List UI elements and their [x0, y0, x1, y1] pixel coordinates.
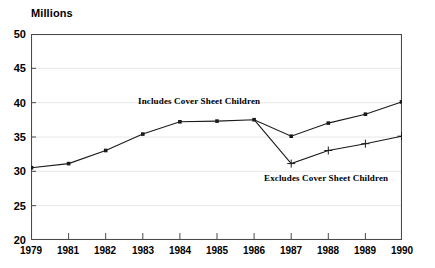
x-tick-label-1985: 1985	[197, 245, 237, 256]
x-tick-label-1987: 1987	[271, 245, 311, 256]
annotation-includes-cover-sheet-children: Includes Cover Sheet Children	[138, 96, 260, 106]
plot-area: Includes Cover Sheet Children Excludes C…	[31, 34, 402, 240]
y-tick-label-45: 45	[2, 62, 26, 74]
y-tick-label-40: 40	[2, 97, 26, 109]
y-tick-label-35: 35	[2, 131, 26, 143]
y-tick-label-30: 30	[2, 165, 26, 177]
x-tick-label-1983: 1983	[123, 245, 163, 256]
annotation-excludes-cover-sheet-children: Excludes Cover Sheet Children	[264, 173, 388, 183]
x-tick-label-1984: 1984	[160, 245, 200, 256]
plot-svg	[31, 34, 402, 240]
chart-title: Millions	[31, 7, 73, 19]
chart-figure: Millions	[0, 0, 435, 268]
x-tick-label-1989: 1989	[345, 245, 385, 256]
y-tick-label-25: 25	[2, 200, 26, 212]
x-tick-label-1979: 1979	[11, 245, 51, 256]
x-tick-label-1990: 1990	[382, 245, 422, 256]
x-tick-label-1988: 1988	[308, 245, 348, 256]
x-tick-label-1982: 1982	[85, 245, 125, 256]
x-tick-label-1981: 1981	[48, 245, 88, 256]
y-tick-label-50: 50	[2, 28, 26, 40]
x-tick-label-1986: 1986	[234, 245, 274, 256]
